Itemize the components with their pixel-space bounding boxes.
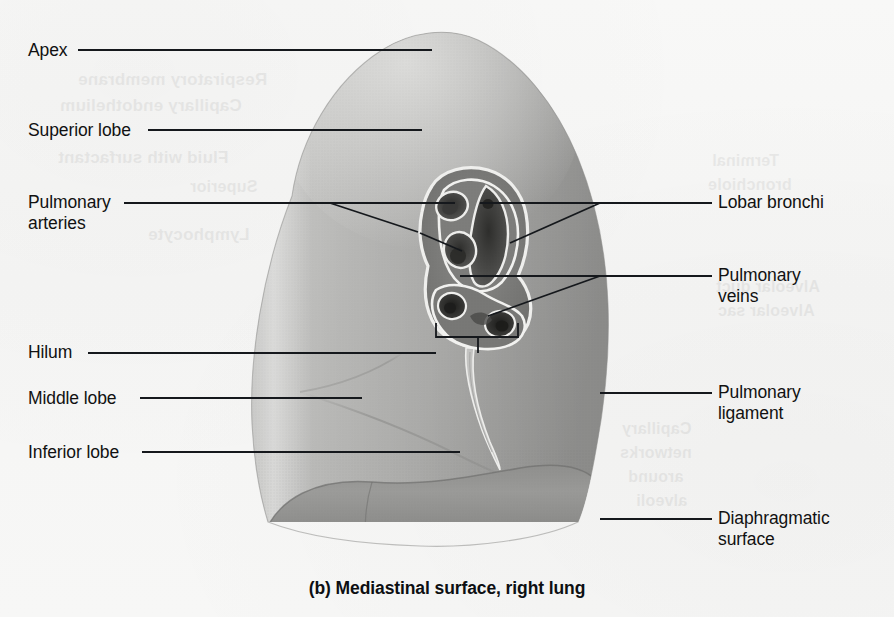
leader-fork-pulmonary-arteries-0	[330, 203, 418, 232]
bleed-through-text: around	[628, 468, 683, 486]
label-lobar-bronchi[interactable]: Lobar bronchi	[718, 192, 824, 213]
pulmonary-ligament-shape	[466, 348, 500, 470]
label-pulmonary-veins[interactable]: Pulmonary veins	[718, 265, 801, 307]
horizontal-fissure	[300, 352, 404, 392]
bleed-through-text: alveoli	[636, 492, 687, 510]
bleed-through-text: Lymphocyte	[148, 225, 250, 245]
label-apex[interactable]: Apex	[28, 40, 68, 61]
leader-fork-lobar-bronchi-1	[510, 203, 600, 243]
pulmonary-vein-superior	[436, 291, 468, 321]
label-hilum[interactable]: Hilum	[28, 342, 72, 363]
diaphragmatic-surface-shape	[240, 450, 630, 560]
label-inferior-lobe[interactable]: Inferior lobe	[28, 442, 119, 463]
pulmonary-vein-inferior	[483, 309, 516, 339]
bleed-through-text: Capillary	[622, 420, 691, 438]
hilum-bracket	[436, 323, 518, 353]
bleed-through-text: Respiratory membrane	[78, 70, 267, 90]
pulmonary-artery-opening	[441, 229, 480, 271]
label-middle-lobe[interactable]: Middle lobe	[28, 388, 116, 409]
oblique-fissure	[300, 392, 552, 494]
label-superior-lobe[interactable]: Superior lobe	[28, 120, 131, 141]
lobar-bronchus-posterior	[469, 186, 508, 287]
label-pulmonary-ligament[interactable]: Pulmonary ligament	[718, 382, 801, 424]
bleed-through-text: Superior	[190, 178, 257, 196]
bleed-through-text: Fluid with surfactant	[58, 148, 228, 168]
leader-fork-pulmonary-veins-1	[488, 276, 600, 316]
hilum-shape	[420, 168, 531, 349]
lung-body	[240, 0, 630, 540]
lobar-bronchus-upper	[432, 188, 471, 225]
bleed-through-text: Capillary endothelium	[60, 96, 242, 116]
figure-page: Respiratory membraneCapillary endotheliu…	[0, 0, 894, 617]
figure-caption: (b) Mediastinal surface, right lung	[0, 578, 894, 599]
leader-fork-pulmonary-arteries-1	[420, 233, 462, 251]
bleed-through-text: Terminal	[712, 152, 779, 170]
label-diaphragmatic-surface[interactable]: Diaphragmatic surface	[718, 508, 830, 550]
bleed-through-text: networks	[620, 444, 692, 462]
lung-outline	[252, 32, 609, 546]
label-pulmonary-arteries[interactable]: Pulmonary arteries	[28, 192, 111, 234]
